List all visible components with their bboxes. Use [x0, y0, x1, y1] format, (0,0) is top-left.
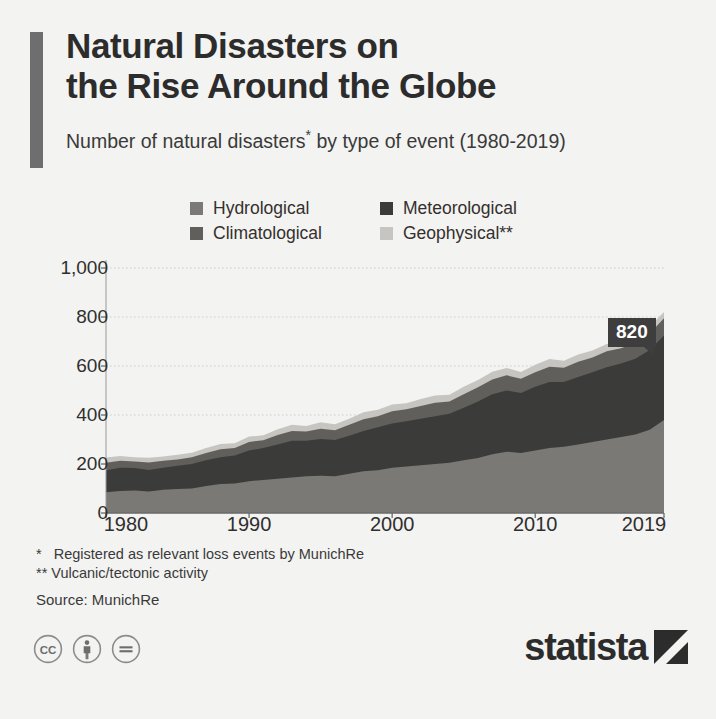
x-axis-tick-2010: 2010 — [513, 513, 558, 536]
data-label-tail — [643, 346, 654, 356]
chart-area: 02004006008001,000 19801990200020102019 … — [0, 0, 716, 719]
legend-swatch-geophysical — [380, 227, 393, 240]
legend-item-meteorological[interactable]: Meteorological — [380, 198, 517, 219]
legend-item-geophysical[interactable]: Geophysical** — [380, 223, 513, 244]
legend-row-2: Climatological Geophysical** — [190, 221, 610, 246]
chart-legend: Hydrological Meteorological Climatologic… — [190, 196, 610, 246]
statista-logo: statista — [524, 628, 688, 666]
x-axis-tick-2000: 2000 — [370, 513, 415, 536]
y-axis-tick-400: 400 — [76, 404, 108, 426]
cc-nd-icon[interactable] — [111, 634, 141, 664]
footnotes: * Registered as relevant loss events by … — [36, 545, 636, 610]
legend-swatch-hydrological — [190, 202, 203, 215]
source-line: Source: MunichRe — [36, 590, 636, 610]
legend-item-climatological[interactable]: Climatological — [190, 223, 380, 244]
y-axis-tick-800: 800 — [76, 306, 108, 328]
y-axis-tick-600: 600 — [76, 355, 108, 377]
cc-by-icon[interactable] — [72, 634, 102, 664]
x-axis-tick-2019: 2019 — [622, 513, 667, 536]
cc-icon[interactable]: CC — [33, 634, 63, 664]
data-label-value: 820 — [616, 321, 648, 342]
legend-item-hydrological[interactable]: Hydrological — [190, 198, 380, 219]
x-axis-labels: 19801990200020102019 — [0, 513, 716, 543]
legend-swatch-meteorological — [380, 202, 393, 215]
legend-label-climatological: Climatological — [213, 223, 322, 244]
x-axis-tick-1990: 1990 — [227, 513, 272, 536]
accent-bar — [30, 32, 43, 168]
legend-swatch-climatological — [190, 227, 203, 240]
statista-logo-mark — [654, 630, 688, 664]
legend-label-geophysical: Geophysical** — [403, 223, 513, 244]
footnote-line-2: ** Vulcanic/tectonic activity — [36, 564, 636, 583]
y-axis-tick-0: 0 — [97, 502, 108, 524]
page-subtitle: Number of natural disasters* by type of … — [66, 123, 566, 153]
footnote-line-1: * Registered as relevant loss events by … — [36, 545, 636, 564]
legend-label-hydrological: Hydrological — [213, 198, 309, 219]
x-axis-tick-1980: 1980 — [104, 513, 149, 536]
y-axis-tick-200: 200 — [76, 453, 108, 475]
legend-row-1: Hydrological Meteorological — [190, 196, 610, 221]
y-axis-tick-1000: 1,000 — [60, 257, 108, 279]
infographic-card: Natural Disasters on the Rise Around the… — [0, 0, 716, 719]
subtitle-text: Number of natural disasters — [66, 130, 306, 152]
legend-label-meteorological: Meteorological — [403, 198, 517, 219]
subtitle-text-tail: by type of event (1980-2019) — [311, 130, 566, 152]
statista-wordmark: statista — [524, 628, 647, 666]
stacked-area-plot — [0, 0, 716, 719]
data-label-2019: 820 — [608, 318, 656, 347]
creative-commons-icons: CC — [33, 634, 141, 664]
svg-text:CC: CC — [40, 644, 57, 656]
page-title: Natural Disasters on the Rise Around the… — [66, 26, 496, 106]
